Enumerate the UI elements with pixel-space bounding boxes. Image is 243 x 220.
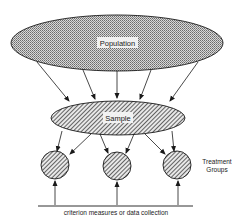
- arrow: [83, 70, 95, 99]
- treatment-group-3: [163, 151, 191, 179]
- criterion-arrows: [55, 181, 178, 205]
- treatment-group-1: [41, 151, 69, 179]
- criterion-label: criterion measures or data collection: [64, 209, 169, 216]
- research-design-diagram: Population Sample Treatment Groups: [0, 0, 243, 220]
- arrow: [100, 134, 108, 153]
- population-node: Population: [11, 15, 223, 71]
- treatment-groups-label-line2: Groups: [206, 166, 228, 174]
- treatment-groups-label-line1: Treatment: [202, 158, 232, 165]
- sample-node: Sample: [51, 101, 185, 135]
- treatment-group-2: [103, 152, 131, 180]
- sample-label: Sample: [105, 114, 130, 123]
- population-label: Population: [100, 39, 135, 48]
- arrow: [70, 134, 91, 154]
- arrow: [126, 134, 134, 153]
- arrow: [57, 131, 62, 151]
- treatment-groups: [41, 151, 191, 180]
- arrow: [140, 70, 151, 99]
- arrow: [172, 131, 174, 151]
- arrow: [37, 62, 69, 101]
- arrow: [145, 134, 165, 154]
- arrow: [170, 62, 198, 101]
